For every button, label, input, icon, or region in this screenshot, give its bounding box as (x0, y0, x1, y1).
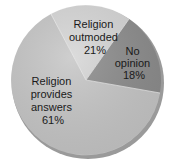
pie-chart: Religion outmoded 21% No opinion 18% Rel… (0, 0, 173, 167)
